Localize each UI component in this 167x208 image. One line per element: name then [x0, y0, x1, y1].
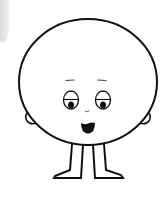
- left-pupil: [68, 101, 74, 108]
- left-eyebrow: [66, 80, 74, 81]
- right-pupil: [100, 101, 106, 108]
- cartoon-character: [0, 0, 167, 208]
- right-eye: [96, 91, 111, 109]
- left-eye: [64, 91, 79, 109]
- left-leg: [54, 144, 83, 178]
- right-leg: [93, 144, 123, 178]
- illustration-canvas: Cartoon character with a large round hea…: [0, 0, 167, 208]
- right-eyebrow: [98, 80, 106, 81]
